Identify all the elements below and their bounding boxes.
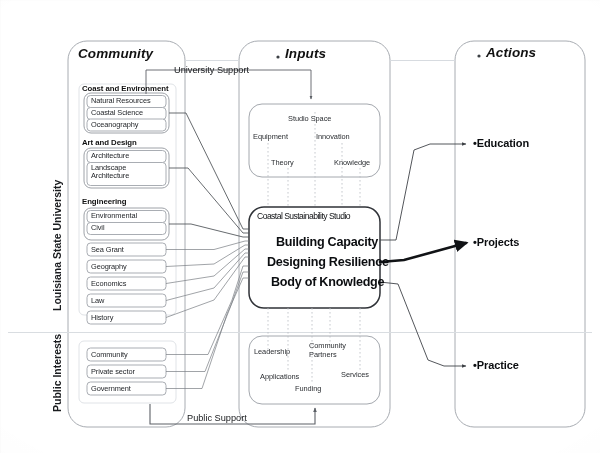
public-label-government[interactable]: Government	[91, 385, 131, 393]
public-label-community[interactable]: Community	[91, 351, 127, 359]
core-line-designing-resilience: Designing Resilience	[267, 256, 389, 270]
dept-label-civil[interactable]: Civil	[91, 224, 104, 232]
group-heading-art-and-design: Art and Design	[82, 139, 137, 147]
connector-art-to-core	[169, 168, 249, 233]
dept-label-natural-resources[interactable]: Natural Resources	[91, 97, 151, 105]
action-label-practice: Practice	[477, 359, 519, 371]
column-heading-actions: Actions	[486, 46, 536, 61]
action-label-education: Education	[477, 137, 529, 149]
input-node-leadership: Leadership	[254, 348, 290, 356]
dept-label-oceanography[interactable]: Oceanography	[91, 121, 138, 129]
group-heading-engineering: Engineering	[82, 198, 127, 206]
connector-community-to-core	[166, 266, 249, 355]
side-label-public-interests: Public Interests	[52, 334, 63, 412]
action-item-practice[interactable]: •Practice	[473, 360, 519, 372]
input-node-funding: Funding	[295, 385, 321, 393]
column-heading-community: Community	[78, 47, 153, 62]
diagram-canvas: Community Inputs Actions Louisiana State…	[0, 0, 600, 453]
header-bullet-inputs	[276, 55, 279, 58]
core-line-building-capacity: Building Capacity	[276, 236, 378, 250]
input-node-services: Services	[341, 371, 369, 379]
input-node-innovation: Innovation	[316, 133, 350, 141]
connector-economics-to-core	[166, 249, 249, 284]
action-label-projects: Projects	[477, 236, 520, 248]
input-node-applications: Applications	[260, 373, 299, 381]
input-node-studio-space: Studio Space	[288, 115, 331, 123]
public-label-private-sector[interactable]: Private sector	[91, 368, 135, 376]
action-item-education[interactable]: •Education	[473, 138, 529, 150]
column-heading-inputs: Inputs	[285, 47, 326, 62]
label-public-support: Public Support	[187, 414, 247, 424]
connector-core-to-projects	[380, 243, 466, 262]
connector-geography-to-core	[166, 245, 249, 267]
input-node-community-partners: Community Partners	[309, 341, 357, 359]
group-heading-coast-and-environment: Coast and Environment	[82, 85, 168, 93]
input-node-equipment: Equipment	[253, 133, 288, 141]
dept-label-history[interactable]: History	[91, 314, 113, 322]
connector-coast-to-core	[169, 113, 249, 229]
label-university-support: University Support	[174, 66, 249, 76]
connector-core-to-practice	[380, 282, 466, 366]
dept-label-sea-grant[interactable]: Sea Grant	[91, 246, 124, 254]
action-item-projects[interactable]: •Projects	[473, 237, 519, 249]
dept-label-architecture[interactable]: Architecture	[91, 152, 129, 160]
core-line-body-of-knowledge: Body of Knowledge	[271, 276, 384, 290]
dept-label-landscape-architecture[interactable]: Landscape Architecture	[91, 164, 155, 180]
side-label-louisiana-state-university: Louisiana State University	[52, 180, 63, 311]
dept-label-economics[interactable]: Economics	[91, 280, 126, 288]
connector-government-to-core	[166, 278, 249, 389]
connector-core-to-education	[380, 144, 466, 240]
input-node-theory: Theory	[271, 159, 294, 167]
connector-sea-grant-to-core	[166, 241, 249, 250]
header-bullet-actions	[477, 54, 480, 57]
core-title: Coastal Sustainability Studio	[257, 212, 350, 221]
input-node-knowledge: Knowledge	[334, 159, 370, 167]
dept-label-environmental[interactable]: Environmental	[91, 212, 137, 220]
dept-label-geography[interactable]: Geography	[91, 263, 127, 271]
dept-label-coastal-science[interactable]: Coastal Science	[91, 109, 143, 117]
dept-label-law[interactable]: Law	[91, 297, 104, 305]
